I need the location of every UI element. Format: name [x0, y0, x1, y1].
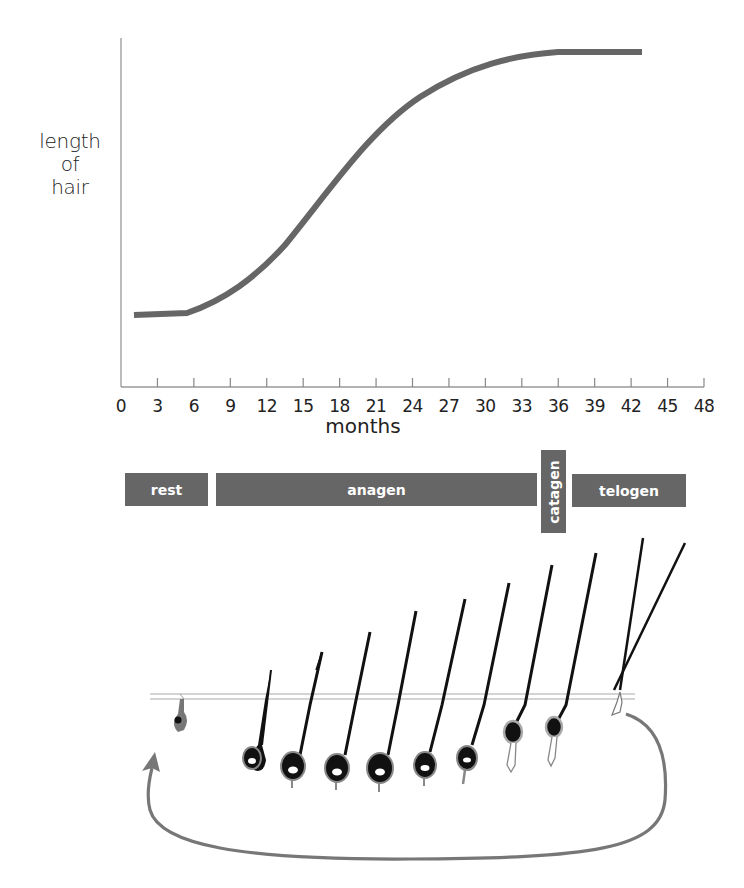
phase-label-rest: rest — [151, 482, 182, 498]
x-tick-label: 15 — [293, 396, 314, 416]
phase-bar-catagen: catagen — [541, 450, 566, 533]
follicle-catagen-2-icon — [546, 553, 596, 766]
phase-bar-rest: rest — [125, 473, 208, 506]
follicle-anagen-3-icon — [325, 632, 370, 790]
hair-length-curve — [134, 52, 642, 315]
x-tick-label: 30 — [475, 396, 496, 416]
x-tick-label: 18 — [329, 396, 350, 416]
chart-canvas — [0, 0, 744, 888]
follicle-anagen-1-icon — [243, 670, 271, 771]
x-tick-label: 48 — [694, 396, 715, 416]
x-tick-label: 12 — [256, 396, 277, 416]
x-tick-label: 36 — [548, 396, 569, 416]
phase-label-catagen: catagen — [546, 460, 562, 523]
x-tick-label: 9 — [225, 396, 235, 416]
follicle-anagen-2-icon — [281, 652, 322, 788]
x-tick-label: 45 — [657, 396, 678, 416]
x-axis-ticks — [157, 378, 704, 387]
follicle-catagen-1-icon — [504, 565, 552, 772]
x-tick-label: 21 — [366, 396, 387, 416]
x-tick-label: 42 — [621, 396, 642, 416]
x-tick-label: 39 — [584, 396, 605, 416]
x-tick-label: 33 — [511, 396, 532, 416]
follicle-anagen-6-icon — [457, 583, 509, 784]
x-tick-label: 27 — [439, 396, 460, 416]
x-tick-label: 0 — [116, 396, 126, 416]
x-tick-label: 3 — [152, 396, 162, 416]
follicle-rest-icon — [174, 694, 187, 732]
x-tick-label: 24 — [402, 396, 423, 416]
x-tick-label: 6 — [189, 396, 199, 416]
skin-surface — [150, 694, 635, 699]
cycle-arrow — [148, 714, 666, 859]
phase-bar-telogen: telogen — [572, 474, 686, 507]
follicle-telogen-icon — [612, 538, 685, 715]
hair-growth-figure: length of hair — [0, 0, 744, 888]
phase-bar-anagen: anagen — [216, 473, 537, 506]
follicle-anagen-4-icon — [367, 611, 416, 792]
phase-label-telogen: telogen — [599, 483, 659, 499]
x-axis-label: months — [325, 414, 400, 438]
phase-label-anagen: anagen — [347, 482, 405, 498]
